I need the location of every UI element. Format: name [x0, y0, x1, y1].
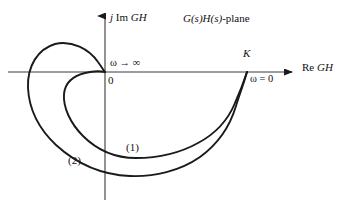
imaginary-axis-label-im: Im [113, 11, 131, 23]
curve-2-label: (2) [68, 155, 81, 166]
plane-label-g: G [183, 12, 191, 24]
omega-zero-label: ω = 0 [250, 74, 273, 85]
plane-label: G(s)H(s)-plane [183, 13, 250, 24]
nyquist-plot-figure: j Im GH G(s)H(s)-plane Re GH ω → ∞ 0 K ω… [0, 0, 355, 210]
curve-1-label: (1) [126, 142, 139, 153]
plot-canvas [0, 0, 355, 210]
plane-label-s1: (s) [191, 12, 203, 24]
gain-k-label: K [243, 48, 250, 59]
omega-infinity-label: ω → ∞ [110, 58, 140, 69]
origin-label: 0 [108, 75, 114, 86]
plane-label-h: H [203, 12, 211, 24]
real-axis-label: Re GH [302, 62, 333, 73]
plane-label-suffix: -plane [222, 12, 249, 24]
imaginary-axis-label: j Im GH [110, 12, 147, 23]
imaginary-axis-label-gh: GH [131, 11, 147, 23]
real-axis-label-re: Re [302, 61, 317, 73]
real-axis-label-gh: GH [317, 61, 333, 73]
nyquist-curve-1 [64, 71, 247, 158]
plane-label-s2: (s) [211, 12, 223, 24]
